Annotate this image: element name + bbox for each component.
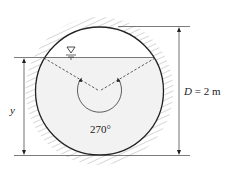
diameter-arrow-top [177, 27, 181, 32]
pipe-diagram: 270° y D = 2 m [0, 0, 230, 178]
diameter-label: D = 2 m [183, 85, 221, 97]
diameter-arrow-bottom [177, 150, 181, 155]
depth-arrow-bottom [22, 150, 26, 155]
depth-arrow-top [22, 58, 26, 63]
depth-label: y [9, 104, 15, 116]
angle-label: 270° [90, 123, 111, 135]
